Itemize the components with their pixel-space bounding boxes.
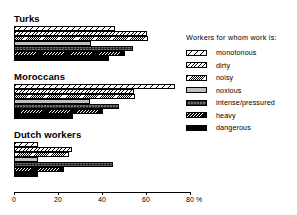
x-axis-unit-label: %	[196, 196, 202, 203]
legend-swatch-icon	[186, 112, 207, 118]
plot-area: TurksMoroccansDutch workers	[14, 10, 196, 192]
legend-label: monotonous	[216, 48, 257, 57]
x-tick-label: 40	[98, 196, 106, 203]
legend-item-intense-pressured: intense/pressured	[186, 97, 296, 108]
legend-swatch-icon	[186, 87, 207, 93]
x-tick	[146, 192, 147, 195]
bar-group-dutch-workers: Dutch workers	[14, 142, 196, 177]
legend-label: noisy	[216, 73, 233, 82]
legend-item-heavy: heavy	[186, 110, 296, 121]
group-label: Dutch workers	[14, 129, 81, 140]
bar-row	[14, 114, 196, 119]
legend-swatch-icon	[186, 62, 207, 68]
group-label: Turks	[14, 13, 40, 24]
x-tick-label: 20	[54, 196, 62, 203]
bar-dangerous	[14, 114, 73, 119]
legend-item-dangerous: dangerous	[186, 122, 296, 133]
legend-item-monotonous: monotonous	[186, 47, 296, 58]
bar-row	[14, 56, 196, 61]
legend-title: Workers for whom work is:	[186, 33, 296, 42]
legend-label: noxious	[216, 86, 241, 95]
chart-container: TurksMoroccansDutch workers 020406080 % …	[0, 0, 297, 215]
legend-label: dirty	[216, 61, 230, 70]
group-label: Moroccans	[14, 71, 65, 82]
x-tick	[190, 192, 191, 195]
legend-swatch-icon	[186, 75, 207, 81]
x-tick	[58, 192, 59, 195]
bar-dangerous	[14, 56, 109, 61]
legend-item-dirty: dirty	[186, 60, 296, 71]
legend-items: monotonousdirtynoisynoxiousintense/press…	[186, 47, 296, 133]
bar-group-turks: Turks	[14, 26, 196, 61]
legend-label: heavy	[216, 111, 236, 120]
x-tick-label: 80	[186, 196, 194, 203]
legend-label: dangerous	[216, 123, 251, 132]
x-tick	[102, 192, 103, 195]
bar-row	[14, 172, 196, 177]
legend: Workers for whom work is: monotonousdirt…	[186, 33, 296, 135]
legend-swatch-icon	[186, 50, 207, 56]
bar-group-moroccans: Moroccans	[14, 84, 196, 119]
legend-item-noxious: noxious	[186, 85, 296, 96]
legend-swatch-icon	[186, 100, 207, 106]
x-tick-label: 0	[12, 196, 16, 203]
legend-label: intense/pressured	[216, 98, 275, 107]
x-tick-label: 60	[142, 196, 150, 203]
legend-item-noisy: noisy	[186, 72, 296, 83]
x-tick	[14, 192, 15, 195]
legend-swatch-icon	[186, 125, 207, 131]
bar-dangerous	[14, 172, 38, 177]
